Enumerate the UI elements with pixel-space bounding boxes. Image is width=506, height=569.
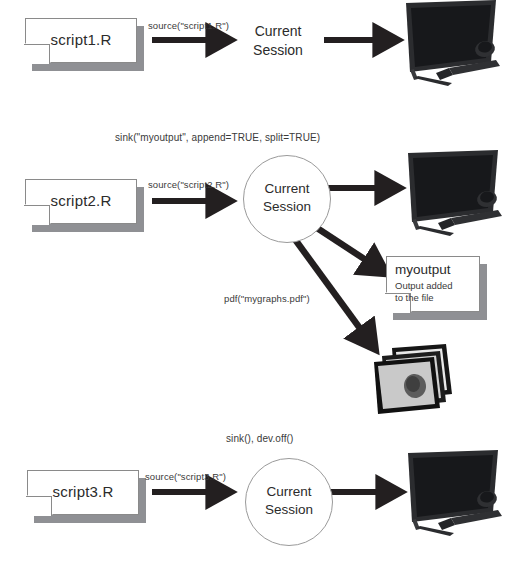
monitor-icon-1 xyxy=(392,0,504,92)
script1-label: script1.R xyxy=(25,31,137,48)
source-call-1: source("script1.R") xyxy=(148,21,229,31)
monitor-icon-3 xyxy=(394,450,506,542)
arrow-session2-to-myoutput xyxy=(317,228,375,266)
script3-label: script3.R xyxy=(27,483,139,500)
monitor-icon-2 xyxy=(394,150,506,242)
source-call-2: source("script2.R") xyxy=(148,180,229,190)
source-call-3: source("script3.R") xyxy=(145,472,226,482)
session-label-3: Current Session xyxy=(245,483,333,519)
arrow-session2-to-graphs xyxy=(294,238,367,338)
session-label-2: Current Session xyxy=(243,180,331,216)
myoutput-title: myoutput xyxy=(395,263,474,278)
script2-document[interactable]: script2.R xyxy=(25,179,137,224)
script1-document[interactable]: script1.R xyxy=(25,18,137,63)
script3-document[interactable]: script3.R xyxy=(27,470,139,515)
myoutput-line-2: to the file xyxy=(395,292,474,304)
myoutput-document[interactable]: myoutput Output added to the file xyxy=(386,256,480,312)
session-label-1: Current Session xyxy=(232,22,324,60)
script2-label: script2.R xyxy=(25,192,137,209)
graphs-stack-icon xyxy=(366,342,458,416)
pdf-call-2: pdf("mygraphs.pdf") xyxy=(224,294,310,304)
myoutput-line-1: Output added xyxy=(395,280,474,292)
sink-call-2: sink("myoutput", append=TRUE, split=TRUE… xyxy=(115,133,320,143)
sink-dev-off-call-3: sink(), dev.off() xyxy=(226,434,293,444)
diagram-canvas: script1.R source("script1.R") Current Se… xyxy=(0,0,506,569)
